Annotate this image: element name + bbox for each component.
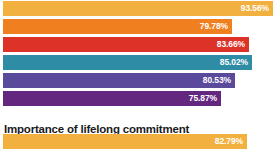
- bar: 85.02%: [3, 55, 252, 70]
- bar-value-label: 79.78%: [200, 22, 232, 31]
- bar-value-label: 83.66%: [217, 40, 249, 49]
- bar-value-label: 75.87%: [189, 94, 221, 103]
- bar-value-label: 93.56%: [241, 4, 273, 13]
- bar-value-label: 85.02%: [220, 58, 252, 67]
- bar-row: 85.02%: [0, 54, 273, 72]
- bar: 83.66%: [3, 37, 249, 52]
- bar-row: 83.66%: [0, 36, 273, 54]
- bar-row: 82.79%: [0, 133, 273, 151]
- bar-chart: 93.56%79.78%83.66%85.02%80.53%75.87% Imp…: [0, 0, 273, 151]
- bar: 82.79%: [3, 134, 247, 149]
- bar-row: 79.78%: [0, 18, 273, 36]
- bar: 79.78%: [3, 19, 232, 34]
- bar: 93.56%: [3, 1, 273, 16]
- bar: 75.87%: [3, 91, 221, 106]
- bar-row: 80.53%: [0, 72, 273, 90]
- bar-row: 75.87%: [0, 90, 273, 108]
- bar-value-label: 82.79%: [215, 137, 247, 146]
- bar-value-label: 80.53%: [203, 76, 235, 85]
- bar: 80.53%: [3, 73, 235, 88]
- bar-row: 93.56%: [0, 0, 273, 18]
